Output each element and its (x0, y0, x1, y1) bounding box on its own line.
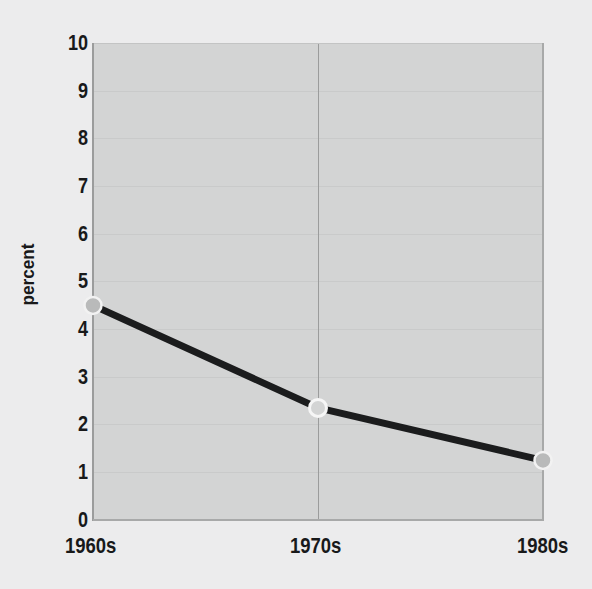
data-series-layer (0, 0, 592, 589)
series-line-percent (93, 305, 543, 460)
data-point-1980s[interactable] (535, 452, 552, 469)
line-chart: 10 9 8 7 6 5 4 3 2 1 0 percent 1960s 197… (0, 0, 592, 589)
data-point-1960s[interactable] (85, 297, 102, 314)
data-point-1970s[interactable] (310, 399, 327, 416)
